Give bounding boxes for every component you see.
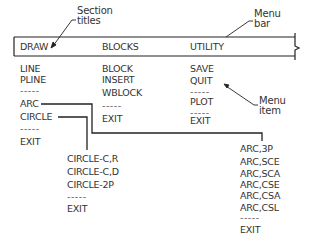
menu-separator: ----- [20, 124, 40, 134]
menu-item-exit[interactable]: EXIT [20, 137, 40, 147]
submenu-item-arc-sca[interactable]: ARC,SCA [240, 169, 280, 179]
submenu-item-arc-csa[interactable]: ARC,CSA [240, 191, 280, 201]
submenu-item-exit[interactable]: EXIT [240, 225, 260, 235]
menu-separator: ----- [67, 192, 87, 202]
submenu-item-circle-2p[interactable]: CIRCLE-2P [67, 180, 114, 190]
menu-bar-label-line2: bar [254, 18, 270, 29]
menu-item-leader [224, 84, 258, 105]
menu-item-wblock[interactable]: WBLOCK [102, 88, 142, 98]
menu-separator: ----- [240, 213, 260, 223]
menu-title-blocks[interactable]: BLOCKS [102, 42, 139, 52]
menu-title-utility[interactable]: UTILITY [190, 42, 224, 52]
menu-separator: ----- [20, 86, 40, 96]
menu-item-plot[interactable]: PLOT [190, 97, 213, 107]
menu-bar-leader [226, 21, 253, 37]
submenu-item-exit[interactable]: EXIT [67, 204, 87, 214]
arc-connector [41, 104, 262, 141]
submenu-item-arc-3p[interactable]: ARC,3P [240, 144, 273, 154]
submenu-item-arc-sce[interactable]: ARC,SCE [240, 157, 280, 167]
menu-item-quit[interactable]: QUIT [190, 76, 212, 86]
submenu-item-circle-cd[interactable]: CIRCLE-C,D [67, 167, 119, 177]
menu-separator: ----- [102, 101, 122, 111]
menu-item-insert[interactable]: INSERT [102, 75, 134, 85]
menu-item-block[interactable]: BLOCK [102, 64, 133, 74]
menu-item-line[interactable]: LINE [20, 64, 40, 74]
section-titles-label-line2: titles [77, 15, 101, 26]
circle-connector [58, 117, 87, 150]
section-titles-leader [51, 20, 76, 48]
menu-item-save[interactable]: SAVE [190, 64, 214, 74]
menu-item-exit[interactable]: EXIT [190, 116, 210, 126]
menu-title-draw[interactable]: DRAW [20, 42, 48, 52]
submenu-item-arc-cse[interactable]: ARC,CSE [240, 180, 280, 190]
menu-item-label-line2: item [259, 105, 281, 116]
submenu-item-circle-cr[interactable]: CIRCLE-C,R [67, 154, 118, 164]
menu-item-pline[interactable]: PLINE [20, 75, 46, 85]
menu-item-exit[interactable]: EXIT [102, 114, 122, 124]
menu-bar-outline [14, 33, 299, 60]
menu-item-arc[interactable]: ARC [20, 99, 39, 109]
menu-item-circle[interactable]: CIRCLE [20, 112, 52, 122]
